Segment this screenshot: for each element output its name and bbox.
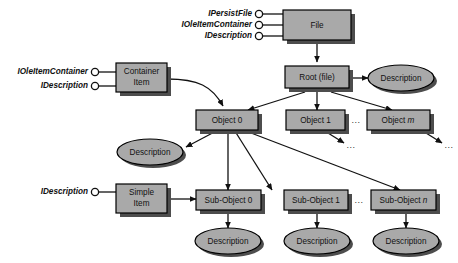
node-root[interactable]: Root (file) (285, 66, 353, 92)
node-subobject1[interactable]: Sub-Object 1 (284, 190, 352, 214)
node-objectm[interactable]: Object m (367, 110, 434, 134)
interface-label-ioleitemcontainer-file: IOleItemContainer (181, 20, 252, 29)
dots-object-row: ... (351, 115, 360, 125)
node-object0-label: Object 0 (212, 116, 243, 125)
diagram-canvas: IPersistFile IOleItemContainer IDescript… (0, 0, 458, 263)
node-simple-item-label-line1: Simple (129, 188, 154, 197)
node-object1-label: Object 1 (300, 116, 331, 125)
dots-subobj-row: ... (354, 195, 363, 205)
node-container-item-label-line1: Container (124, 67, 160, 76)
node-file-label: File (310, 21, 324, 30)
node-container-item[interactable]: Container Item (116, 63, 171, 96)
interface-label-idescription-container: IDescription (41, 81, 88, 90)
node-description-root-label: Description (381, 74, 422, 83)
node-root-label: Root (file) (299, 73, 335, 82)
node-objectm-label-index: m (408, 116, 415, 125)
interface-label-ipersistfile: IPersistFile (208, 9, 252, 18)
node-container-item-label-line2: Item (134, 78, 150, 87)
lollipop-icon-idescription-file[interactable] (255, 32, 262, 39)
interface-label-idescription-simple: IDescription (41, 187, 88, 196)
node-description-object0-label: Description (130, 148, 171, 157)
node-objectm-label: Object m (382, 116, 415, 125)
node-file[interactable]: File (283, 10, 355, 44)
diagram-svg: IPersistFile IOleItemContainer IDescript… (0, 0, 458, 263)
node-description-subobject0-label: Description (208, 237, 249, 246)
node-object0[interactable]: Object 0 (196, 110, 262, 134)
node-subobjectn-label-text: Sub-Object (380, 196, 423, 205)
dots-after-objm: ... (444, 140, 453, 150)
node-description-subobjectn-label: Description (386, 237, 427, 246)
node-subobject0[interactable]: Sub-Object 0 (196, 190, 265, 214)
lollipop-icon-ioleitemcontainer-container[interactable] (91, 68, 98, 75)
interface-label-ioleitemcontainer-container: IOleItemContainer (17, 67, 88, 76)
node-subobjectn[interactable]: Sub-Object n (371, 190, 440, 214)
node-subobjectn-label: Sub-Object n (380, 196, 428, 205)
node-simple-item-label-line2: Item (134, 199, 150, 208)
lollipop-icon-idescription-simple[interactable] (91, 188, 98, 195)
lollipop-icon-idescription-container[interactable] (91, 82, 98, 89)
node-objectm-label-text: Object (382, 116, 408, 125)
node-subobject0-label: Sub-Object 0 (205, 196, 253, 205)
node-simple-item[interactable]: Simple Item (116, 184, 171, 217)
node-description-subobject1-label: Description (297, 237, 338, 246)
interface-label-idescription-file: IDescription (205, 31, 252, 40)
dots-after-obj1: ... (346, 140, 355, 150)
lollipop-icon-ioleitemcontainer-file[interactable] (255, 21, 262, 28)
node-subobjectn-label-index: n (423, 196, 428, 205)
node-object1[interactable]: Object 1 (286, 110, 349, 134)
node-subobject1-label: Sub-Object 1 (292, 196, 340, 205)
lollipop-icon-ipersistfile[interactable] (255, 10, 262, 17)
